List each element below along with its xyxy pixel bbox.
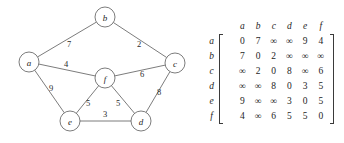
graph-panel: 724695583abcdef	[0, 0, 196, 143]
edge-weight-fd: 5	[116, 98, 120, 108]
matrix-cell-ed: 3	[282, 94, 298, 109]
matrix-corner-cell	[204, 19, 219, 34]
matrix-cell-fe: 5	[297, 109, 313, 124]
matrix-bracket-right	[329, 34, 344, 124]
matrix-row-header-b: b	[204, 49, 219, 64]
matrix-cell-ad: ∞	[282, 34, 298, 49]
matrix-cell-cf: 6	[313, 64, 329, 79]
matrix-cell-be: ∞	[297, 49, 313, 64]
matrix-col-header-c: c	[266, 19, 282, 34]
matrix-bracket-left	[219, 34, 234, 124]
matrix-head: abcdef	[204, 19, 344, 34]
matrix-body: a07∞∞94b702∞∞∞c∞208∞6d∞∞8035e9∞∞305f4∞65…	[204, 34, 344, 124]
graph-node-label-b: b	[103, 13, 108, 23]
graph-node-label-e: e	[68, 117, 72, 127]
matrix-cell-ac: ∞	[266, 34, 282, 49]
matrix-cell-ea: 9	[235, 94, 251, 109]
matrix-cell-fb: ∞	[250, 109, 266, 124]
edge-weight-af: 4	[64, 59, 69, 69]
matrix-cell-cb: 2	[250, 64, 266, 79]
matrix-col-header-d: d	[282, 19, 298, 34]
matrix-row-header-e: e	[204, 94, 219, 109]
graph-drawing: 724695583abcdef	[0, 0, 196, 143]
matrix-cell-fd: 5	[282, 109, 298, 124]
edge-weight-fc: 6	[140, 69, 144, 79]
matrix-col-header-f: f	[313, 19, 329, 34]
matrix-corner-spacer	[219, 19, 234, 34]
adjacency-matrix: abcdef a07∞∞94b702∞∞∞c∞208∞6d∞∞8035e9∞∞3…	[204, 19, 344, 124]
edge-weight-ef: 5	[86, 98, 90, 108]
matrix-cell-db: ∞	[250, 79, 266, 94]
graph-and-adjacency-matrix-figure: 724695583abcdef abcdef a07∞∞94b702∞∞∞c∞2…	[0, 0, 344, 143]
matrix-cell-aa: 0	[235, 34, 251, 49]
matrix-cell-cc: 0	[266, 64, 282, 79]
matrix-cell-bc: 2	[266, 49, 282, 64]
graph-node-label-d: d	[139, 117, 144, 127]
matrix-cell-ef: 5	[313, 94, 329, 109]
matrix-cell-ba: 7	[235, 49, 251, 64]
matrix-table: abcdef a07∞∞94b702∞∞∞c∞208∞6d∞∞8035e9∞∞3…	[204, 19, 344, 124]
matrix-cell-bd: ∞	[282, 49, 298, 64]
matrix-cell-da: ∞	[235, 79, 251, 94]
matrix-panel: abcdef a07∞∞94b702∞∞∞c∞208∞6d∞∞8035e9∞∞3…	[196, 0, 344, 143]
matrix-cell-cd: 8	[282, 64, 298, 79]
edge-weight-ae: 9	[49, 83, 53, 93]
graph-node-label-c: c	[173, 59, 177, 69]
matrix-row-header-d: d	[204, 79, 219, 94]
edge-weight-ab: 7	[67, 39, 71, 49]
matrix-col-header-e: e	[297, 19, 313, 34]
matrix-cell-ce: ∞	[297, 64, 313, 79]
matrix-cell-ca: ∞	[235, 64, 251, 79]
matrix-col-header-b: b	[250, 19, 266, 34]
matrix-row-header-a: a	[204, 34, 219, 49]
matrix-header-row: abcdef	[204, 19, 344, 34]
edge-weight-cd: 8	[157, 87, 161, 97]
matrix-cell-dd: 0	[282, 79, 298, 94]
matrix-cell-bf: ∞	[313, 49, 329, 64]
matrix-cell-ec: ∞	[266, 94, 282, 109]
matrix-cell-ee: 0	[297, 94, 313, 109]
matrix-cell-eb: ∞	[250, 94, 266, 109]
matrix-cell-ab: 7	[250, 34, 266, 49]
matrix-cell-de: 3	[297, 79, 313, 94]
matrix-cell-fc: 6	[266, 109, 282, 124]
matrix-cell-fa: 4	[235, 109, 251, 124]
matrix-cell-df: 5	[313, 79, 329, 94]
matrix-cell-dc: 8	[266, 79, 282, 94]
matrix-row-header-c: c	[204, 64, 219, 79]
matrix-cell-ff: 0	[313, 109, 329, 124]
matrix-row-header-f: f	[204, 109, 219, 124]
matrix-cell-af: 4	[313, 34, 329, 49]
graph-node-label-a: a	[27, 58, 32, 68]
edge-weight-ed: 3	[103, 109, 107, 119]
matrix-cell-ae: 9	[297, 34, 313, 49]
matrix-row: a07∞∞94	[204, 34, 344, 49]
matrix-cell-bb: 0	[250, 49, 266, 64]
matrix-corner-spacer-right	[329, 19, 344, 34]
edge-weight-bc: 2	[137, 39, 141, 49]
matrix-col-header-a: a	[235, 19, 251, 34]
